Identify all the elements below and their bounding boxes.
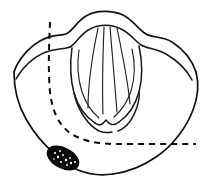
lesion-speck <box>69 157 71 159</box>
outer-contour-left <box>14 72 55 154</box>
inner-rim-left <box>16 47 70 79</box>
lesion-speck <box>62 154 64 156</box>
lesion-speck <box>57 156 59 158</box>
lesion-speck <box>54 152 56 154</box>
glottic-floor <box>95 120 119 125</box>
vocal-cord-left-inner <box>103 27 104 114</box>
inner-rim-upper-arc <box>70 25 141 47</box>
outer-contour-top <box>14 11 196 72</box>
lesion-speck <box>66 164 68 166</box>
larynx-line-drawing: Laryngoscopic view of the larynx with re… <box>0 0 211 189</box>
outer-contour-right <box>113 72 198 174</box>
vocal-cords-group <box>88 27 130 114</box>
outer-contour-group <box>14 11 198 174</box>
lesion-speck <box>53 158 55 160</box>
lesion-speck <box>74 161 76 163</box>
inner-rim-right <box>141 45 192 80</box>
anatomical-figure: Laryngoscopic view of the larynx with re… <box>0 0 211 189</box>
resection-line <box>49 22 196 144</box>
vocal-cord-right-outer <box>117 28 130 104</box>
lesion-speck <box>60 161 62 163</box>
glottic-wall-left <box>71 48 95 123</box>
vocal-cord-left-outer <box>88 28 98 108</box>
lesion-speck <box>70 162 72 164</box>
vocal-cord-right-inner <box>110 27 117 112</box>
resection-line-group <box>49 22 196 144</box>
lesion-speck <box>65 159 68 162</box>
glottic-aperture-group <box>71 46 142 133</box>
lesion-speck <box>59 150 61 152</box>
